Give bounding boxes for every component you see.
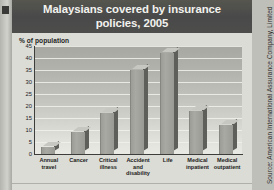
- y-axis-tick-label: 20: [18, 103, 32, 109]
- y-axis-tick-label: 25: [18, 91, 32, 97]
- chart-title-bar: Malaysians covered by insurance policies…: [12, 0, 252, 33]
- source-credit: Source: American International Assurance…: [266, 6, 273, 184]
- y-axis-tick-label: 45: [18, 43, 32, 49]
- edge-mark-icon: [2, 6, 9, 14]
- bar: [71, 127, 89, 154]
- bars-group: [34, 46, 242, 154]
- bar-front-face: [41, 147, 55, 154]
- y-axis-tick-label: 5: [18, 139, 32, 145]
- y-axis-tick-label: 0: [18, 151, 32, 157]
- y-axis-tick-label: 10: [18, 127, 32, 133]
- x-axis-label: Life: [153, 157, 183, 164]
- y-axis-ticks: 051015202530354045: [16, 46, 32, 154]
- card-bottom-rule: [12, 183, 252, 184]
- bar: [100, 108, 118, 154]
- x-axis-label: Accidentanddisability: [123, 157, 153, 177]
- bar-front-face: [71, 132, 85, 154]
- x-axis-label: Medicalinpatient: [183, 157, 213, 170]
- bar: [219, 120, 237, 154]
- x-axis-label: Cancer: [64, 157, 94, 164]
- chart-card: Malaysians covered by insurance policies…: [12, 0, 252, 190]
- bar: [189, 106, 207, 154]
- bar-front-face: [160, 53, 174, 154]
- page-title: Malaysians covered by insurance policies…: [20, 3, 244, 30]
- source-strip: Source: American International Assurance…: [252, 0, 274, 190]
- chart-plot-area: % of population 051015202530354045 Annua…: [12, 33, 252, 190]
- y-axis-tick-label: 15: [18, 115, 32, 121]
- x-axis-label: Criticalillness: [93, 157, 123, 170]
- y-axis-tick-label: 40: [18, 55, 32, 61]
- x-axis-label: Annualtravel: [34, 157, 64, 170]
- bar-front-face: [130, 70, 144, 154]
- bar: [41, 142, 59, 154]
- bar: [160, 48, 178, 154]
- x-axis-line: [34, 154, 243, 155]
- bar: [130, 65, 148, 154]
- bar-front-face: [100, 113, 114, 154]
- bar-front-face: [219, 125, 233, 154]
- bar-front-face: [189, 111, 203, 154]
- scan-edge-artifact: [0, 0, 12, 190]
- y-axis-tick-label: 30: [18, 79, 32, 85]
- screenshot-root: Malaysians covered by insurance policies…: [0, 0, 274, 190]
- x-axis-label: Medicaloutpatient: [212, 157, 242, 170]
- y-axis-tick-label: 35: [18, 67, 32, 73]
